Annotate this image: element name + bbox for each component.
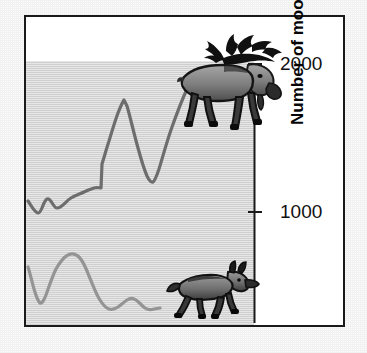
series-line-wolf [28, 254, 160, 310]
moose-antlers [204, 34, 282, 64]
y-tick-label-1000: 1000 [280, 201, 322, 223]
moose-illustration [174, 31, 290, 137]
series-line-moose [28, 69, 198, 213]
y-axis-title: Number of moose [288, 0, 308, 125]
wolf-illustration [166, 260, 262, 324]
figure-frame: 2000 1000 Number of moose [24, 15, 345, 327]
